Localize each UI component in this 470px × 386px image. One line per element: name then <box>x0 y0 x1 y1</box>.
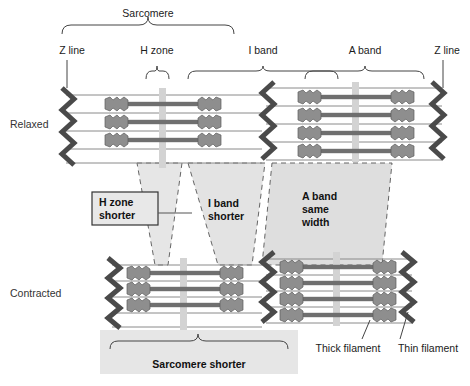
transition-shading <box>137 163 392 265</box>
callout-i-band-shorter-line2: shorter <box>208 210 244 222</box>
label-i-band: I band <box>248 44 277 56</box>
z-line-contracted-right <box>402 252 414 322</box>
callout-a-band-same-line1: A band <box>302 190 337 202</box>
callout-h-zone-shorter-line1: H zone <box>99 196 134 208</box>
z-line-relaxed-left <box>62 88 74 165</box>
thick-filaments-relaxed-left <box>105 97 221 147</box>
bracket-a-band <box>305 66 424 79</box>
label-sarcomere-shorter: Sarcomere shorter <box>152 358 245 370</box>
callout-h-zone-shorter-line2: shorter <box>99 209 135 221</box>
m-line-relaxed-left <box>159 88 166 168</box>
z-line-relaxed-mid <box>262 82 274 159</box>
top-annotations: Sarcomere Z line H zone I band A band Z … <box>59 7 460 88</box>
thick-filaments-contracted-left <box>127 266 243 312</box>
label-z-line-right: Z line <box>434 44 460 56</box>
label-thick-filament: Thick filament <box>316 342 381 354</box>
bracket-i-band <box>188 66 338 79</box>
sarcomere-diagram: Sarcomere Z line H zone I band A band Z … <box>0 0 470 386</box>
z-line-relaxed-right <box>432 82 444 159</box>
bracket-sarcomere <box>62 17 234 34</box>
callout-i-band-shorter-line1: I band <box>208 197 239 209</box>
m-line-contracted-left <box>180 258 187 332</box>
label-h-zone: H zone <box>140 44 173 56</box>
label-contracted: Contracted <box>10 287 62 299</box>
sarcomere-shorter-annotation: Sarcomere shorter <box>100 330 298 374</box>
callout-a-band-same-line3: width <box>301 216 329 228</box>
callout-a-band-same-line2: same <box>302 203 329 215</box>
diagram-canvas: Sarcomere Z line H zone I band A band Z … <box>0 0 470 386</box>
label-relaxed: Relaxed <box>10 118 49 130</box>
label-z-line-left: Z line <box>59 44 85 56</box>
relaxed-state: Relaxed <box>10 82 444 168</box>
z-line-contracted-left <box>108 258 120 328</box>
bracket-h-zone <box>146 66 169 79</box>
label-a-band: A band <box>349 44 382 56</box>
label-thin-filament: Thin filament <box>398 342 458 354</box>
